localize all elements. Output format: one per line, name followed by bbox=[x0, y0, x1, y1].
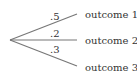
branch-line-3 bbox=[10, 40, 77, 66]
outcome-label-3: outcome 3 bbox=[85, 62, 137, 73]
probability-label-1: .5 bbox=[50, 11, 60, 22]
outcome-label-1: outcome 1 bbox=[85, 9, 137, 20]
outcome-label-2: outcome 2 bbox=[85, 35, 137, 46]
probability-label-3: .3 bbox=[50, 44, 60, 55]
branch-line-1 bbox=[10, 14, 77, 40]
probability-tree: .5 .2 .3 outcome 1 outcome 2 outcome 3 bbox=[0, 0, 137, 77]
probability-label-2: .2 bbox=[50, 28, 60, 39]
